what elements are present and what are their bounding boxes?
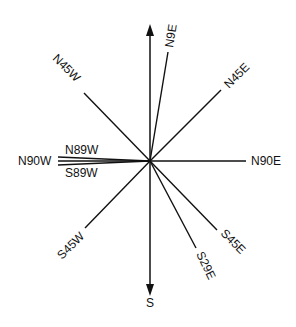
label-n45w: N45W xyxy=(50,51,84,85)
compass-svg: S N9E N45E N45W N90E N89W N90W S89W S45W… xyxy=(0,0,296,327)
label-s: S xyxy=(146,296,154,310)
label-s29e: S29E xyxy=(193,249,218,282)
label-n45e: N45E xyxy=(221,60,252,91)
compass-bearings-diagram: S N9E N45E N45W N90E N89W N90W S89W S45W… xyxy=(0,0,296,327)
label-s45w: S45W xyxy=(54,229,87,262)
label-n90e: N90E xyxy=(251,154,281,168)
bearing-line-n9e xyxy=(150,52,168,161)
bearing-line-s29e xyxy=(150,161,196,248)
label-n89w: N89W xyxy=(65,143,99,157)
south-arrowhead-icon xyxy=(146,284,154,296)
label-s89w: S89W xyxy=(65,166,98,180)
label-s45e: S45E xyxy=(218,226,249,257)
north-arrowhead-icon xyxy=(146,24,154,36)
bearing-line-s45e xyxy=(150,161,217,230)
label-n90w: N90W xyxy=(18,154,52,168)
label-n9e: N9E xyxy=(162,23,179,48)
